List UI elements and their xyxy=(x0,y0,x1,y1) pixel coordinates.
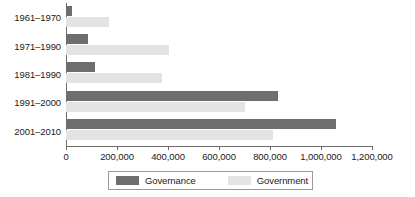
bar-government xyxy=(66,45,169,55)
y-axis-tick-label: 1971–1990 xyxy=(14,40,61,51)
plot-area: 1961–19701971–19901981–19901991–20002001… xyxy=(66,3,372,145)
bar-government xyxy=(66,130,273,140)
x-axis-tick xyxy=(219,146,220,150)
category-group: 1961–1970 xyxy=(66,3,372,31)
y-axis-tick-label: 1991–2000 xyxy=(14,97,61,108)
bar-governance xyxy=(66,119,336,129)
legend-label-government: Government xyxy=(257,175,308,186)
x-axis-tick-label: 200,000 xyxy=(100,151,134,162)
x-axis-tick-label: 400,000 xyxy=(151,151,185,162)
category-group: 2001–2010 xyxy=(66,117,372,145)
bar-government xyxy=(66,17,109,27)
x-axis-tick-label: 800,000 xyxy=(253,151,287,162)
y-axis-tick-label: 1981–1990 xyxy=(14,68,61,79)
x-axis-tick xyxy=(321,146,322,150)
bar-governance xyxy=(66,6,72,16)
x-axis-tick-label: 0 xyxy=(63,151,68,162)
category-group: 1981–1990 xyxy=(66,60,372,88)
chart-legend: Governance Government xyxy=(108,171,313,190)
category-group: 1971–1990 xyxy=(66,31,372,59)
x-axis-tick-label: 600,000 xyxy=(202,151,236,162)
y-axis-tick-label: 2001–2010 xyxy=(14,125,61,136)
x-axis-tick xyxy=(270,146,271,150)
y-axis-tick-label: 1961–1970 xyxy=(14,12,61,23)
bar-governance xyxy=(66,62,95,72)
bar-government xyxy=(66,102,245,112)
bar-chart: 1961–19701971–19901981–19901991–20002001… xyxy=(0,0,415,197)
legend-item-government[interactable]: Government xyxy=(228,175,308,186)
x-axis-tick xyxy=(117,146,118,150)
bar-government xyxy=(66,73,162,83)
x-axis-tick-label: 1,000,000 xyxy=(300,151,341,162)
legend-swatch-government xyxy=(228,176,251,185)
legend-swatch-governance xyxy=(116,176,139,185)
x-axis-tick-label: 1,200,000 xyxy=(351,151,392,162)
legend-label-governance: Governance xyxy=(145,175,196,186)
x-axis-tick xyxy=(66,146,67,150)
bar-governance xyxy=(66,34,88,44)
bar-governance xyxy=(66,91,278,101)
legend-item-governance[interactable]: Governance xyxy=(116,175,196,186)
category-group: 1991–2000 xyxy=(66,88,372,116)
x-axis-tick xyxy=(168,146,169,150)
x-axis-tick xyxy=(372,146,373,150)
